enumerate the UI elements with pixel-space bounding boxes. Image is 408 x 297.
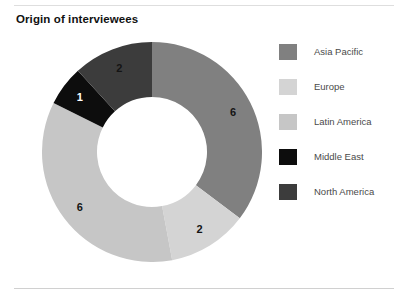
legend-item-label: Middle East: [314, 149, 364, 165]
legend-item-label: Asia Pacific: [314, 44, 363, 60]
legend-item[interactable]: North America: [279, 182, 404, 217]
donut-slices: [42, 42, 262, 262]
donut-chart-svg: 62612: [42, 42, 262, 262]
legend-item[interactable]: Middle East: [279, 147, 404, 182]
donut-slice-value-label: 6: [230, 106, 236, 118]
donut-slice-value-label: 1: [77, 91, 83, 103]
donut-slice-value-label: 2: [116, 62, 122, 74]
page-title: Origin of interviewees: [16, 13, 138, 25]
legend-item[interactable]: Latin America: [279, 112, 404, 147]
legend-item-label: Europe: [314, 79, 345, 95]
legend-item[interactable]: Europe: [279, 77, 404, 112]
legend-color-swatch: [279, 79, 297, 95]
chart-legend: Asia PacificEuropeLatin AmericaMiddle Ea…: [279, 42, 404, 217]
donut-chart: 62612: [42, 42, 262, 262]
top-divider: [14, 5, 394, 6]
legend-color-swatch: [279, 149, 297, 165]
legend-color-swatch: [279, 44, 297, 60]
donut-slice-value-label: 2: [197, 223, 203, 235]
donut-slice-value-label: 6: [77, 201, 83, 213]
legend-item[interactable]: Asia Pacific: [279, 42, 404, 77]
legend-color-swatch: [279, 114, 297, 130]
legend-color-swatch: [279, 184, 297, 200]
chart-page: Origin of interviewees 62612 Asia Pacifi…: [0, 0, 408, 297]
donut-slice[interactable]: [42, 103, 172, 262]
donut-slice[interactable]: [152, 42, 262, 218]
legend-item-label: Latin America: [314, 114, 372, 130]
bottom-divider: [14, 288, 394, 289]
legend-item-label: North America: [314, 184, 374, 200]
